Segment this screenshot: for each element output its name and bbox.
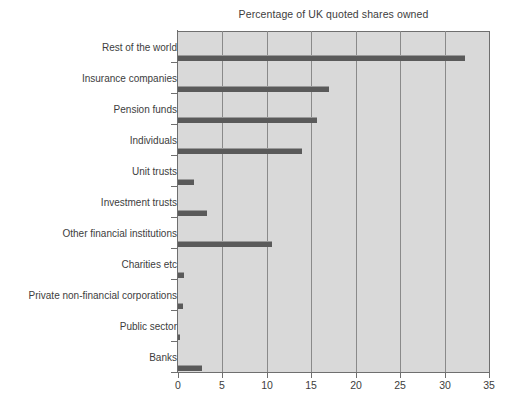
x-axis-tick — [445, 373, 446, 378]
y-axis-labels: Rest of the worldInsurance companiesPens… — [0, 0, 177, 411]
bar — [178, 210, 207, 216]
x-axis-tick — [267, 373, 268, 378]
y-axis-label: Individuals — [5, 134, 177, 145]
y-axis-tick — [171, 248, 177, 249]
y-axis-tick — [171, 93, 177, 94]
y-axis-tick — [171, 310, 177, 311]
bar — [178, 365, 202, 371]
plot-area — [178, 31, 490, 373]
x-axis-tick-label: 30 — [439, 379, 451, 391]
y-axis-label: Investment trusts — [5, 196, 177, 207]
gridline-10 — [267, 31, 268, 372]
x-axis-tick-label: 25 — [394, 379, 406, 391]
y-axis-line — [177, 30, 178, 373]
y-axis-tick — [171, 372, 177, 373]
gridline-20 — [356, 31, 357, 372]
y-axis-label: Other financial institutions — [5, 227, 177, 238]
y-axis-label: Public sector — [5, 320, 177, 331]
bar — [178, 334, 180, 340]
bar — [178, 272, 184, 278]
bar — [178, 241, 272, 247]
chart-figure: Percentage of UK quoted shares owned Res… — [0, 0, 510, 411]
x-axis-tick-label: 15 — [305, 379, 317, 391]
bar — [178, 179, 194, 185]
y-axis-tick — [171, 155, 177, 156]
y-axis-label: Banks — [5, 351, 177, 362]
x-axis-tick — [311, 373, 312, 378]
x-axis-line — [177, 372, 490, 373]
x-axis-tick-label: 35 — [483, 379, 495, 391]
x-axis-tick-label: 20 — [350, 379, 362, 391]
bar — [178, 303, 183, 309]
y-axis-tick — [171, 279, 177, 280]
x-axis-tick — [400, 373, 401, 378]
x-axis-tick-label: 0 — [175, 379, 181, 391]
gridline-5 — [222, 31, 223, 372]
y-axis-label: Rest of the world — [5, 41, 177, 52]
y-axis-label: Insurance companies — [5, 72, 177, 83]
gridline-30 — [445, 31, 446, 372]
x-axis-tick-label: 5 — [219, 379, 225, 391]
y-axis-tick — [171, 186, 177, 187]
chart-title: Percentage of UK quoted shares owned — [178, 8, 489, 20]
y-axis-tick — [171, 124, 177, 125]
gridline-15 — [311, 31, 312, 372]
y-axis-label: Pension funds — [5, 103, 177, 114]
bar — [178, 117, 317, 123]
x-axis-tick — [178, 373, 179, 378]
gridline-25 — [400, 31, 401, 372]
y-axis-tick — [171, 62, 177, 63]
y-axis-label: Private non-financial corporations — [5, 289, 177, 300]
bar — [178, 148, 302, 154]
x-axis-tick — [489, 373, 490, 378]
y-axis-tick — [171, 217, 177, 218]
x-axis-tick-label: 10 — [261, 379, 273, 391]
y-axis-label: Unit trusts — [5, 165, 177, 176]
bar — [178, 86, 329, 92]
x-axis-tick — [222, 373, 223, 378]
bar — [178, 55, 465, 61]
y-axis-tick — [171, 341, 177, 342]
x-axis-tick — [356, 373, 357, 378]
y-axis-label: Charities etc — [5, 258, 177, 269]
